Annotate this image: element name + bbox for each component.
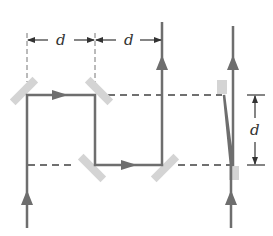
optical-diagram: d d d bbox=[0, 0, 273, 236]
mirror-bottom-left bbox=[78, 154, 106, 182]
mirror-top-left bbox=[10, 77, 38, 105]
arrow-right-icon bbox=[52, 90, 68, 100]
arrow-up-icon bbox=[21, 190, 33, 205]
arrow-up-icon bbox=[227, 55, 239, 70]
dimension-label-vertical: d bbox=[250, 121, 260, 139]
dashed-reference-lines bbox=[28, 95, 230, 165]
arrow-up-icon bbox=[225, 190, 237, 205]
dimension-label-right: d bbox=[124, 31, 134, 49]
mirror-top-middle bbox=[85, 77, 113, 105]
arrow-right-icon bbox=[121, 160, 137, 170]
dimension-label-left: d bbox=[56, 31, 66, 49]
mirror-right-top bbox=[217, 80, 227, 94]
mirror-bottom-right bbox=[151, 154, 179, 182]
arrow-up-icon bbox=[156, 55, 168, 70]
